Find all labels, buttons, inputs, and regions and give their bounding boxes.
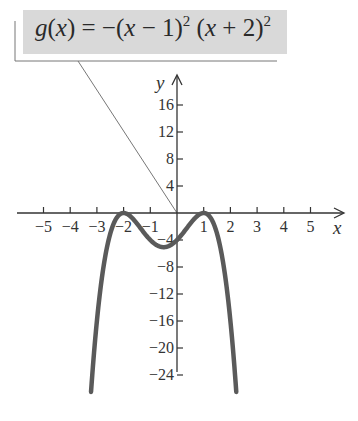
- x-tick-label: −3: [88, 218, 105, 235]
- function-graph: xy−5−4−3−2−112345161284−4−8−12−16−20−24: [0, 0, 358, 421]
- y-tick-label: −8: [157, 258, 174, 275]
- y-tick-label: 12: [158, 123, 174, 140]
- y-axis-label: y: [154, 72, 165, 93]
- y-tick-label: −20: [149, 339, 174, 356]
- x-tick-label: 1: [200, 218, 208, 235]
- y-tick-label: 8: [166, 150, 174, 167]
- label-bracket: [15, 21, 277, 61]
- x-tick-label: 5: [307, 218, 315, 235]
- x-tick-label: −5: [35, 218, 52, 235]
- y-tick-label: −24: [149, 366, 174, 383]
- x-tick-label: −4: [62, 218, 79, 235]
- x-tick-label: 4: [280, 218, 288, 235]
- y-tick-label: 16: [158, 96, 174, 113]
- x-tick-label: 2: [226, 218, 234, 235]
- y-tick-label: −16: [149, 312, 174, 329]
- y-tick-label: 4: [166, 177, 174, 194]
- x-tick-label: 3: [253, 218, 261, 235]
- y-tick-label: −12: [149, 285, 174, 302]
- x-axis-label: x: [332, 217, 342, 238]
